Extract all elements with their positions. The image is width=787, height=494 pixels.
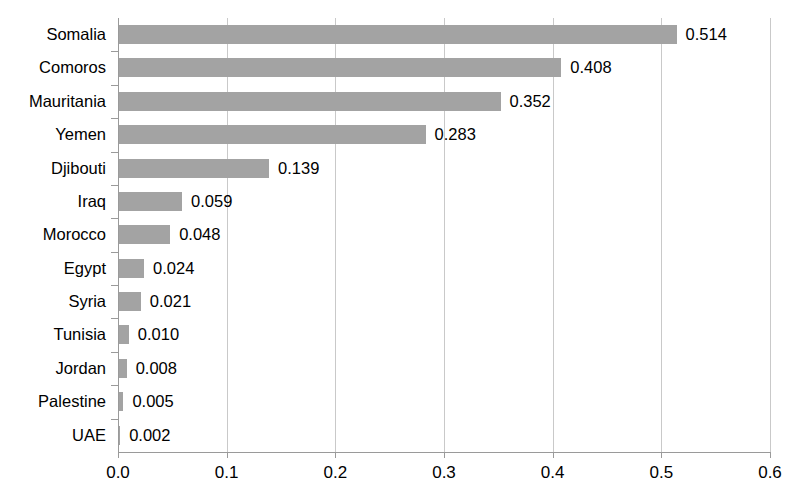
- y-axis-tick: [111, 252, 118, 253]
- bar-value-label: 0.514: [686, 24, 727, 44]
- x-axis-tick-label: 0.5: [631, 462, 691, 484]
- category-label: Yemen: [0, 124, 106, 144]
- category-label: UAE: [0, 425, 106, 445]
- bar[interactable]: [118, 125, 426, 144]
- category-label: Morocco: [0, 224, 106, 244]
- category-label: Comoros: [0, 57, 106, 77]
- bar[interactable]: [118, 58, 561, 77]
- bar[interactable]: [118, 92, 501, 111]
- bar-value-label: 0.010: [138, 324, 179, 344]
- bar-row[interactable]: 0.002: [118, 419, 770, 452]
- y-axis-tick: [111, 385, 118, 386]
- y-axis-tick: [111, 218, 118, 219]
- bar[interactable]: [118, 225, 170, 244]
- bar[interactable]: [118, 325, 129, 344]
- category-label: Palestine: [0, 391, 106, 411]
- category-label: Djibouti: [0, 158, 106, 178]
- x-axis-tick-label: 0.6: [740, 462, 787, 484]
- bar[interactable]: [118, 192, 182, 211]
- category-label: Iraq: [0, 191, 106, 211]
- y-axis-tick: [111, 152, 118, 153]
- category-label: Mauritania: [0, 91, 106, 111]
- x-axis-tick-label: 0.2: [305, 462, 365, 484]
- x-axis-tick: [335, 452, 336, 458]
- category-label: Jordan: [0, 358, 106, 378]
- x-axis-tick: [118, 452, 119, 458]
- plot-area: 0.5140.4080.3520.2830.1390.0590.0480.024…: [118, 18, 770, 452]
- bar-value-label: 0.048: [179, 224, 220, 244]
- bar-row[interactable]: 0.008: [118, 352, 770, 385]
- bar-value-label: 0.408: [570, 57, 611, 77]
- bar-value-label: 0.021: [150, 291, 191, 311]
- x-axis-tick: [444, 452, 445, 458]
- x-axis-tick-label: 0.0: [88, 462, 148, 484]
- bar-row[interactable]: 0.005: [118, 385, 770, 418]
- x-axis-tick: [661, 452, 662, 458]
- bar-row[interactable]: 0.048: [118, 218, 770, 251]
- bar[interactable]: [118, 259, 144, 278]
- bar-value-label: 0.005: [132, 391, 173, 411]
- y-axis-tick: [111, 185, 118, 186]
- bar[interactable]: [118, 292, 141, 311]
- y-axis-tick: [111, 318, 118, 319]
- category-label: Tunisia: [0, 324, 106, 344]
- category-label: Somalia: [0, 24, 106, 44]
- y-axis-tick: [111, 352, 118, 353]
- bar[interactable]: [118, 25, 677, 44]
- x-axis-tick-label: 0.4: [523, 462, 583, 484]
- bar-row[interactable]: 0.283: [118, 118, 770, 151]
- bar-value-label: 0.024: [153, 258, 194, 278]
- bar[interactable]: [118, 159, 269, 178]
- bar-value-label: 0.352: [510, 91, 551, 111]
- bar-value-label: 0.283: [435, 124, 476, 144]
- x-axis-tick-label: 0.3: [414, 462, 474, 484]
- y-axis-labels: SomaliaComorosMauritaniaYemenDjiboutiIra…: [0, 18, 112, 452]
- bar-value-label: 0.008: [136, 358, 177, 378]
- x-axis-tick: [227, 452, 228, 458]
- bar[interactable]: [118, 359, 127, 378]
- bar-row[interactable]: 0.514: [118, 18, 770, 51]
- category-label: Egypt: [0, 258, 106, 278]
- y-axis-tick: [111, 285, 118, 286]
- bar-value-label: 0.059: [191, 191, 232, 211]
- y-axis-tick: [111, 51, 118, 52]
- x-axis-tick-label: 0.1: [197, 462, 257, 484]
- x-axis-tick: [553, 452, 554, 458]
- bar-row[interactable]: 0.139: [118, 152, 770, 185]
- gridline: [770, 18, 771, 452]
- bar-value-label: 0.002: [129, 425, 170, 445]
- x-axis-tick: [770, 452, 771, 458]
- bar-row[interactable]: 0.059: [118, 185, 770, 218]
- bar-row[interactable]: 0.021: [118, 285, 770, 318]
- y-axis-tick: [111, 85, 118, 86]
- bar-chart: 0.5140.4080.3520.2830.1390.0590.0480.024…: [0, 0, 787, 494]
- bar-value-label: 0.139: [278, 158, 319, 178]
- bar-row[interactable]: 0.024: [118, 252, 770, 285]
- y-axis-tick: [111, 419, 118, 420]
- bar-row[interactable]: 0.352: [118, 85, 770, 118]
- y-axis-tick: [111, 118, 118, 119]
- category-label: Syria: [0, 291, 106, 311]
- bar-row[interactable]: 0.408: [118, 51, 770, 84]
- bar-row[interactable]: 0.010: [118, 318, 770, 351]
- y-axis-line: [118, 18, 119, 452]
